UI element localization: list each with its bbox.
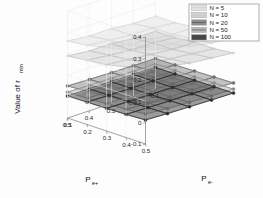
- legend-item[interactable]: N = 100: [192, 33, 232, 40]
- legend-label: N = 100: [210, 33, 232, 40]
- legend-label: N = 50: [210, 26, 229, 33]
- left-depth-axis-label: Pe+: [85, 175, 98, 186]
- legend[interactable]: N = 5N = 10N = 20N = 50N = 100: [189, 4, 259, 41]
- vertical-axis-tick-label: 0: [138, 119, 142, 126]
- data-point-marker: [232, 88, 235, 91]
- vertical-axis-tick-label: 0.3: [133, 55, 142, 62]
- vertical-axis-label: Value of rmin: [13, 64, 24, 114]
- left-depth-axis-tick-label: 0.2: [83, 128, 92, 135]
- vertical-axis-tick-label: 0.2: [133, 76, 142, 83]
- data-point-marker: [193, 79, 196, 82]
- left-depth-axis-tick-label: 0.3: [103, 134, 112, 141]
- left-depth-axis-label-sub: e+: [92, 180, 98, 186]
- legend-label: N = 5: [210, 4, 225, 11]
- legend-item[interactable]: N = 20: [192, 19, 229, 26]
- right-depth-axis-label-sub: e-: [208, 179, 213, 185]
- data-point-marker: [108, 94, 111, 97]
- right-depth-axis-tick-label: 0.4: [85, 114, 94, 121]
- data-point-marker: [130, 87, 133, 90]
- data-point-marker: [213, 82, 216, 85]
- data-point-marker: [213, 85, 216, 88]
- data-point-marker: [213, 76, 216, 79]
- vertical-axis-label-main: Value of r: [13, 80, 22, 114]
- data-point-marker: [171, 86, 174, 89]
- legend-item[interactable]: N = 10: [192, 11, 229, 18]
- data-point-marker: [169, 99, 172, 102]
- data-point-marker: [174, 69, 177, 72]
- data-point-marker: [193, 70, 196, 73]
- data-point-marker: [147, 106, 150, 109]
- right-depth-axis-tick-label: 0.1: [151, 92, 160, 99]
- data-point-marker: [174, 72, 177, 75]
- right-depth-axis-label-main: P: [201, 174, 206, 183]
- right-depth-axis-label: Pe-: [201, 174, 213, 185]
- legend-label: N = 20: [210, 19, 229, 26]
- legend-label: N = 10: [210, 11, 229, 18]
- vertical-axis-tick-label: 0.4: [133, 33, 142, 40]
- vertical-axis-label-sub: min: [18, 64, 24, 73]
- data-point-marker: [152, 79, 155, 82]
- right-depth-axis-tick-label: 0.2: [129, 99, 138, 106]
- vertical-axis-tick: [143, 144, 145, 145]
- right-depth-axis-tick-label: 0.5: [63, 121, 72, 128]
- left-depth-axis-tick-label: 0.5: [142, 147, 151, 154]
- data-point-marker: [166, 112, 169, 115]
- data-point-marker: [232, 92, 235, 95]
- data-point-marker: [188, 105, 191, 108]
- vertical-axis-tick-label: -0.1: [131, 140, 142, 147]
- vertical-axis-tick: [143, 123, 145, 124]
- data-point-marker: [232, 81, 235, 84]
- right-depth-axis-tick-label: 0.3: [107, 107, 116, 114]
- left-depth-axis-label-main: P: [85, 175, 90, 184]
- data-point-marker: [210, 99, 213, 102]
- mesh-surface-plot: 0.40.30.20.10-0.10.50.40.30.20.10.50.40.…: [0, 0, 263, 198]
- data-point-marker: [191, 92, 194, 95]
- data-point-marker: [174, 63, 177, 66]
- left-depth-axis-tick-label: 0.4: [122, 141, 131, 148]
- figure-container: 0.40.30.20.10-0.10.50.40.30.20.10.50.40.…: [0, 0, 263, 198]
- legend-item[interactable]: N = 50: [192, 26, 229, 33]
- data-point-marker: [193, 75, 196, 78]
